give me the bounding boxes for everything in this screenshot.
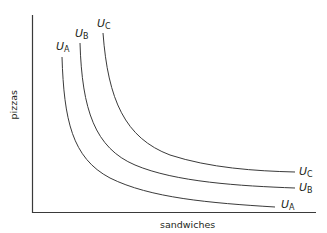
curve-label-u-b-right: UB	[299, 182, 313, 195]
curve-label-u-c-right: UC	[299, 166, 313, 179]
x-axis-title: sandwiches	[160, 220, 215, 230]
curve-label-u-a-top: UA	[56, 41, 70, 54]
curve-u-b	[80, 43, 295, 188]
curve-label-u-a-right: UA	[281, 199, 295, 212]
diagram-graphics	[0, 0, 327, 233]
curve-u-a	[62, 57, 275, 207]
curve-label-u-b-top: UB	[75, 28, 89, 41]
curve-label-u-c-top: UC	[97, 18, 111, 31]
y-axis-title: pizzas	[9, 87, 19, 123]
curve-u-c	[103, 33, 295, 172]
indifference-curve-diagram: UA UB UC UC UB UA sandwiches pizzas	[0, 0, 327, 233]
